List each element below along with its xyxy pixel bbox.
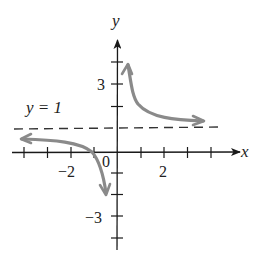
asymptote-label: y = 1 [24, 98, 62, 117]
y-axis [117, 40, 118, 250]
x-axis [12, 152, 240, 153]
y-tick-label-neg3: −3 [85, 209, 102, 226]
y-tick-label-3: 3 [97, 76, 105, 93]
asymptote-line [14, 127, 222, 129]
x-tick-label-2: 2 [159, 163, 167, 180]
function-graph: y x 3 −3 −2 2 0 y = 1 [0, 0, 253, 259]
origin-label: 0 [102, 153, 110, 170]
curve-right-branch [128, 65, 203, 121]
x-axis-label: x [240, 142, 249, 161]
x-tick-label-neg2: −2 [58, 163, 75, 180]
y-axis-label: y [110, 11, 120, 30]
